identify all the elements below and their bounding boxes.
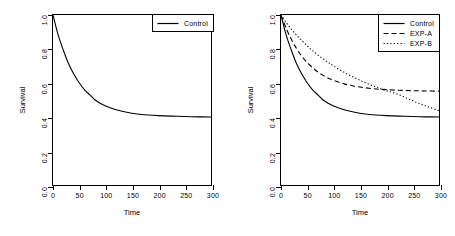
x-tick-mark [441,185,442,190]
legend-label: EXP-A [410,30,432,37]
legend-key-solid-icon [383,19,405,28]
plot-area-left: 0.00.20.40.60.81.0050100150200250300 [52,14,212,186]
y-tick-mark [48,84,53,85]
x-axis-title-right: Time [280,208,440,217]
legend-key-dashed-icon [383,29,405,38]
survival-curves-figure: 0.00.20.40.60.81.0050100150200250300 Sur… [0,0,455,236]
x-tick-mark [361,185,362,190]
x-tick-mark [133,185,134,190]
y-tick-mark [276,15,281,16]
x-tick-mark [414,185,415,190]
legend-key-solid-icon [157,19,179,28]
x-tick-label: 150 [355,192,367,199]
legend-item-exp-a: EXP-A [383,28,434,38]
y-tick-mark [276,153,281,154]
x-tick-label: 50 [304,192,312,199]
x-tick-label: 200 [154,192,166,199]
y-tick-label: 0.2 [41,153,48,163]
x-tick-label: 250 [180,192,192,199]
x-tick-mark [281,185,282,190]
y-tick-label: 0.8 [269,49,276,59]
y-tick-mark [48,49,53,50]
x-tick-label: 200 [382,192,394,199]
y-tick-label: 0.6 [269,84,276,94]
y-tick-label: 0.8 [41,49,48,59]
legend-right: ControlEXP-AEXP-B [378,14,440,52]
x-tick-label: 150 [127,192,139,199]
x-tick-label: 100 [100,192,112,199]
legend-item-control: Control [383,18,434,28]
panel-right: 0.00.20.40.60.81.0050100150200250300 Sur… [228,0,455,236]
x-tick-label: 100 [328,192,340,199]
y-tick-mark [48,153,53,154]
panel-left: 0.00.20.40.60.81.0050100150200250300 Sur… [0,0,227,236]
y-tick-label: 0.0 [41,187,48,197]
y-tick-label: 0.0 [269,187,276,197]
x-tick-label: 300 [207,192,219,199]
x-tick-mark [80,185,81,190]
legend-label: Control [410,20,434,27]
x-tick-mark [53,185,54,190]
y-tick-label: 0.4 [41,118,48,128]
x-tick-label: 0 [279,192,283,199]
y-tick-mark [276,118,281,119]
y-tick-mark [48,15,53,16]
x-tick-label: 300 [435,192,447,199]
legend-key-dotted-icon [383,39,405,48]
y-tick-label: 0.4 [269,118,276,128]
curves-left [53,15,211,185]
x-tick-mark [186,185,187,190]
y-tick-label: 0.2 [269,153,276,163]
legend-item-exp-b: EXP-B [383,38,434,48]
x-tick-label: 50 [76,192,84,199]
x-tick-mark [308,185,309,190]
x-tick-mark [213,185,214,190]
x-tick-label: 250 [408,192,420,199]
y-tick-mark [48,118,53,119]
x-tick-mark [388,185,389,190]
y-tick-mark [276,84,281,85]
x-axis-title-left: Time [52,208,212,217]
y-tick-label: 1.0 [269,15,276,25]
legend-item-control: Control [157,18,208,28]
x-tick-label: 0 [51,192,55,199]
x-tick-mark [160,185,161,190]
y-tick-label: 1.0 [41,15,48,25]
y-tick-mark [276,49,281,50]
y-axis-title-left: Survival [18,87,27,114]
y-axis-title-right: Survival [246,87,255,114]
legend-label: Control [184,20,208,27]
x-tick-mark [106,185,107,190]
y-tick-label: 0.6 [41,84,48,94]
legend-left: Control [152,14,214,32]
x-tick-mark [334,185,335,190]
legend-label: EXP-B [410,40,432,47]
